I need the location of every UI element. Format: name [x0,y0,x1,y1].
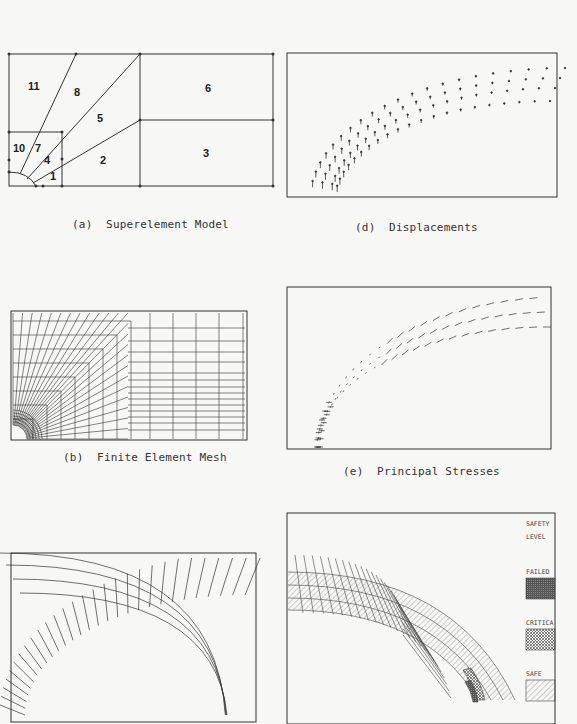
caption-e: (e) Principal Stresses [343,465,500,478]
refined-mesh-plot [0,540,290,724]
principal-stress-plot [285,270,577,480]
legend-failed-swatch [526,578,555,599]
label-2: 2 [100,154,106,166]
legend-critical-label: CRITICA [526,619,553,627]
legend-title-2: LEVEL [526,533,546,541]
label-10: 10 [13,142,25,154]
label-8: 8 [74,86,80,98]
caption-b: (b) Finite Element Mesh [63,451,227,464]
panel-safety-levels: SAFETY LEVEL FAILED CRITICA SAFE [285,510,577,724]
safety-level-plot: SAFETY LEVEL FAILED CRITICA SAFE [285,510,577,724]
legend-title-1: SAFETY [526,520,550,528]
panel-refined-mesh [0,540,290,724]
panel-principal-stresses: (e) Principal Stresses [285,270,577,480]
label-6: 6 [205,82,211,94]
label-1: 1 [50,170,56,182]
caption-d: (d) Displacements [355,221,478,234]
label-7: 7 [35,142,41,154]
label-5: 5 [97,112,103,124]
legend-failed-label: FAILED [526,568,550,576]
label-11: 11 [28,80,40,92]
legend-safe-label: SAFE [526,670,542,678]
panel-superelement-model: 11 8 5 6 3 2 10 7 4 1 (a) Superelement M… [0,0,290,240]
legend-safe-swatch [526,680,555,701]
label-3: 3 [203,147,209,159]
caption-a: (a) Superelement Model [72,218,229,231]
superelement-diagram: 11 8 5 6 3 2 10 7 4 1 [0,0,290,240]
panel-displacements: (d) Displacements [285,40,577,260]
label-4: 4 [44,154,51,166]
fe-mesh-plot [0,300,290,470]
legend: SAFETY LEVEL FAILED CRITICA SAFE [526,520,555,701]
panel-finite-element-mesh: (b) Finite Element Mesh [0,300,290,470]
legend-critical-swatch [526,629,555,650]
